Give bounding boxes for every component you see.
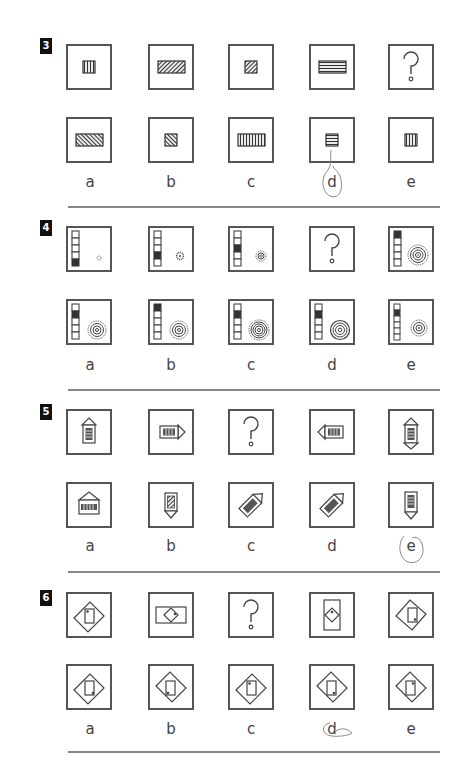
pattern-cell bbox=[148, 409, 194, 455]
pattern-cell bbox=[388, 409, 434, 455]
option-label-d: d bbox=[312, 356, 352, 374]
answer-option-b[interactable] bbox=[148, 664, 194, 710]
pencil-diagonal-icon bbox=[230, 484, 272, 526]
rotated-rectangles-icon bbox=[68, 666, 110, 708]
answer-option-c[interactable] bbox=[228, 117, 274, 163]
pattern-cell bbox=[228, 226, 274, 272]
section-divider bbox=[68, 571, 440, 573]
pencil-diagonal-icon bbox=[311, 484, 353, 526]
pattern-cell bbox=[309, 409, 355, 455]
pattern-cell bbox=[309, 44, 355, 90]
answer-option-a[interactable] bbox=[66, 299, 112, 345]
pattern-cell bbox=[228, 44, 274, 90]
pencil-right-icon bbox=[150, 411, 192, 453]
pattern-cell bbox=[148, 226, 194, 272]
option-label-c: c bbox=[231, 537, 271, 555]
answer-option-b[interactable] bbox=[148, 482, 194, 528]
option-label-a: a bbox=[70, 537, 110, 555]
anti-diagonal-hatched-square-icon bbox=[150, 119, 192, 161]
section-divider bbox=[68, 751, 440, 753]
pattern-cell bbox=[388, 592, 434, 638]
column-and-target-icon bbox=[150, 228, 192, 270]
rotated-rectangles-icon bbox=[390, 594, 432, 636]
answer-option-b[interactable] bbox=[148, 299, 194, 345]
pattern-cell bbox=[148, 44, 194, 90]
option-label-e: e bbox=[391, 537, 431, 555]
question-mark-icon bbox=[390, 46, 432, 88]
answer-option-e[interactable] bbox=[388, 482, 434, 528]
column-and-target-icon bbox=[150, 301, 192, 343]
diagonal-hatched-square-icon bbox=[230, 46, 272, 88]
answer-option-c[interactable] bbox=[228, 482, 274, 528]
horizontal-hatched-rectangle-icon bbox=[311, 46, 353, 88]
pattern-cell bbox=[388, 226, 434, 272]
section-divider bbox=[68, 389, 440, 391]
rotated-rectangles-icon bbox=[68, 594, 110, 636]
answer-option-d[interactable] bbox=[309, 482, 355, 528]
question-mark-icon bbox=[311, 228, 353, 270]
column-and-target-icon bbox=[230, 301, 272, 343]
option-label-b: b bbox=[151, 720, 191, 738]
option-label-a: a bbox=[70, 720, 110, 738]
option-label-b: b bbox=[151, 356, 191, 374]
column-and-target-icon bbox=[68, 301, 110, 343]
question-cell bbox=[228, 592, 274, 638]
column-and-target-icon bbox=[390, 301, 432, 343]
vertical-hatched-rectangle-icon bbox=[230, 119, 272, 161]
option-label-c: c bbox=[231, 173, 271, 191]
diagonal-hatched-rectangle-icon bbox=[150, 46, 192, 88]
option-label-a: a bbox=[70, 173, 110, 191]
vertical-hatched-square-icon bbox=[390, 119, 432, 161]
option-label-b: b bbox=[151, 173, 191, 191]
house-shape-icon bbox=[68, 484, 110, 526]
rotated-rectangles-icon bbox=[311, 594, 353, 636]
rotated-rectangles-icon bbox=[390, 666, 432, 708]
question-cell bbox=[228, 409, 274, 455]
horizontal-hatched-square-icon bbox=[311, 119, 353, 161]
answer-option-e[interactable] bbox=[388, 664, 434, 710]
section-divider bbox=[68, 206, 440, 208]
answer-option-c[interactable] bbox=[228, 299, 274, 345]
question-number-badge: 4 bbox=[40, 220, 52, 236]
option-label-d: d bbox=[312, 720, 352, 738]
pencil-double-tip-icon bbox=[390, 411, 432, 453]
question-number-badge: 5 bbox=[40, 404, 52, 420]
option-label-c: c bbox=[231, 356, 271, 374]
question-number-badge: 6 bbox=[40, 590, 52, 606]
answer-option-d[interactable] bbox=[309, 117, 355, 163]
question-mark-icon bbox=[230, 594, 272, 636]
column-and-target-icon bbox=[390, 228, 432, 270]
option-label-e: e bbox=[391, 720, 431, 738]
question-number-badge: 3 bbox=[40, 38, 52, 54]
vertical-hatched-square-icon bbox=[68, 46, 110, 88]
answer-option-d[interactable] bbox=[309, 299, 355, 345]
column-and-target-icon bbox=[311, 301, 353, 343]
answer-option-e[interactable] bbox=[388, 117, 434, 163]
answer-option-a[interactable] bbox=[66, 117, 112, 163]
option-label-b: b bbox=[151, 537, 191, 555]
column-and-target-icon bbox=[230, 228, 272, 270]
pattern-cell bbox=[309, 592, 355, 638]
pattern-cell bbox=[66, 409, 112, 455]
option-label-d: d bbox=[312, 173, 352, 191]
answer-option-e[interactable] bbox=[388, 299, 434, 345]
anti-diagonal-hatched-rectangle-icon bbox=[68, 119, 110, 161]
option-label-c: c bbox=[231, 720, 271, 738]
question-cell bbox=[309, 226, 355, 272]
column-and-target-icon bbox=[68, 228, 110, 270]
rotated-rectangles-icon bbox=[230, 666, 272, 708]
rotated-rectangles-icon bbox=[311, 666, 353, 708]
option-label-e: e bbox=[391, 356, 431, 374]
answer-option-c[interactable] bbox=[228, 664, 274, 710]
option-label-a: a bbox=[70, 356, 110, 374]
answer-option-b[interactable] bbox=[148, 117, 194, 163]
answer-option-a[interactable] bbox=[66, 664, 112, 710]
question-cell bbox=[388, 44, 434, 90]
option-label-e: e bbox=[391, 173, 431, 191]
pattern-cell bbox=[148, 592, 194, 638]
answer-option-d[interactable] bbox=[309, 664, 355, 710]
pencil-left-icon bbox=[311, 411, 353, 453]
pattern-cell bbox=[66, 44, 112, 90]
answer-option-a[interactable] bbox=[66, 482, 112, 528]
question-mark-icon bbox=[230, 411, 272, 453]
